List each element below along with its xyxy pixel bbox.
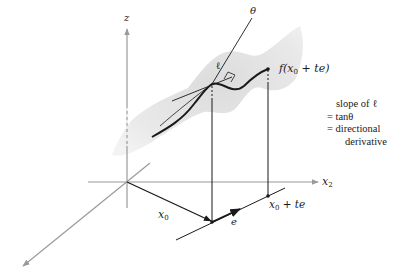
- z-axis-label: z: [124, 13, 129, 23]
- point-rest: + te: [279, 198, 305, 210]
- ell-label: ℓ: [216, 61, 221, 71]
- slope-annotation: slope of ℓ = tanθ = directional derivati…: [327, 98, 387, 148]
- x0-sub: 0: [164, 214, 168, 222]
- theta-label: θ: [250, 6, 256, 16]
- x2-sub: 2: [328, 181, 332, 189]
- curve-label: f(x0 + te): [279, 63, 329, 76]
- surface-graph: [112, 26, 303, 156]
- x1-axis: [23, 163, 150, 266]
- curve-f: f(x: [279, 62, 294, 75]
- x2-axis-label: x2: [322, 176, 333, 189]
- e-label: e: [231, 217, 237, 227]
- annotation-line-3: = directional: [327, 123, 387, 136]
- curve-rest: + te): [298, 62, 329, 75]
- annotation-line-1: slope of ℓ: [327, 98, 387, 111]
- x0-vector: [127, 182, 211, 221]
- x0-plus-te-label: x0 + te: [269, 199, 305, 212]
- annotation-line-2: = tanθ: [327, 111, 387, 124]
- annotation-line-4: derivative: [327, 136, 387, 149]
- curve-endpoint: [266, 67, 270, 71]
- x0-label: x0: [158, 209, 169, 222]
